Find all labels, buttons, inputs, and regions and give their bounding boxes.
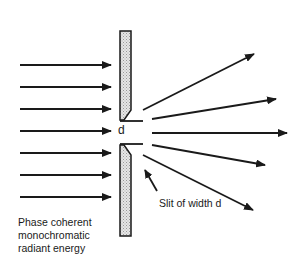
- source-caption-line: radiant energy: [18, 242, 92, 255]
- source-caption-line: monochromatic: [18, 229, 92, 242]
- incoming-rays: [20, 65, 111, 197]
- source-caption: Phase coherent monochromatic radiant ene…: [18, 216, 92, 255]
- diffracted-ray: [143, 54, 254, 110]
- diffracted-ray: [152, 145, 265, 165]
- slit-pointer-arrow: [145, 170, 157, 191]
- upper-barrier: [120, 31, 131, 120]
- source-caption-line: Phase coherent: [18, 216, 92, 229]
- lower-barrier: [120, 145, 131, 236]
- diffraction-diagram: d Slit of width d Phase coherent monochr…: [0, 0, 304, 273]
- diffracted-rays: [143, 54, 287, 210]
- slit-width-symbol: d: [118, 124, 125, 137]
- slit-caption: Slit of width d: [159, 197, 221, 210]
- diffracted-ray: [152, 99, 276, 119]
